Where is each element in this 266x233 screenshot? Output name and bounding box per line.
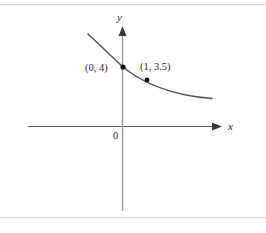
- data-point-1-3point5: [145, 78, 150, 83]
- y-axis-label: y: [117, 12, 122, 23]
- figure-container: y x 0 (0, 4) (1, 3.5): [0, 0, 266, 233]
- x-axis-arrowhead: [212, 123, 222, 131]
- x-axis-label: x: [228, 121, 233, 132]
- point-label-0-4: (0, 4): [85, 63, 108, 74]
- data-point-0-4: [120, 64, 125, 69]
- origin-label: 0: [113, 131, 118, 142]
- coordinate-plane-graphic: [0, 0, 266, 233]
- point-label-1-3point5: (1, 3.5): [140, 62, 171, 73]
- y-axis-arrowhead: [119, 26, 127, 36]
